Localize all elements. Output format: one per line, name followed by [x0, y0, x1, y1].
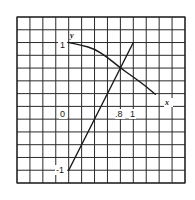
- x-tick-0.8: .8: [115, 109, 123, 119]
- x-axis-label: x: [164, 98, 169, 107]
- x-tick-1: 1: [130, 109, 135, 119]
- y-tick-1: 1: [60, 40, 65, 50]
- origin-label: 0: [60, 109, 65, 119]
- y-axis-label: y: [69, 31, 74, 40]
- grid: [17, 17, 185, 183]
- grid-border: [17, 17, 185, 183]
- graph-figure: y 1 0 .8 1 x -1: [0, 0, 195, 200]
- y-tick-minus-1: -1: [56, 165, 64, 175]
